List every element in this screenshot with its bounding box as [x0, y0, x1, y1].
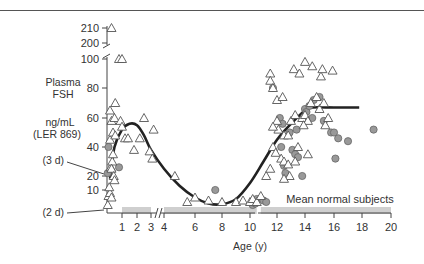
data-point-triangle	[111, 99, 120, 107]
y-tick-label: 80	[87, 82, 99, 94]
data-point-circle	[105, 143, 112, 150]
x-tick-label: 12	[271, 221, 283, 233]
data-point-triangle	[109, 150, 118, 158]
y-tick-label: 210	[81, 22, 99, 34]
data-point-triangle	[328, 66, 337, 74]
data-point-triangle	[140, 114, 149, 122]
data-point-triangle	[103, 201, 112, 209]
data-point-triangle	[130, 145, 139, 153]
data-point-circle	[332, 155, 339, 162]
x-tick-label: 10	[244, 221, 256, 233]
data-point-triangle	[218, 198, 227, 206]
x-tick-label: 2	[134, 221, 140, 233]
data-point-triangle	[149, 125, 158, 133]
data-point-triangle	[291, 111, 300, 119]
data-point-circle	[344, 138, 351, 145]
y-label-units: ng/mL	[30, 116, 90, 128]
normal-band-label: Mean normal subjects	[280, 193, 400, 205]
data-point-circle	[212, 186, 219, 193]
data-point-triangle	[301, 57, 310, 65]
annotation-2d-leader	[67, 210, 104, 213]
data-point-circle	[278, 143, 285, 150]
x-axis-label: Age (y)	[220, 240, 280, 252]
data-point-triangle	[183, 198, 192, 206]
annotation-3d-leader	[67, 162, 104, 174]
data-point-circle	[299, 172, 306, 179]
y-label-line-2: FSH	[38, 88, 88, 100]
data-point-triangle	[289, 65, 298, 73]
data-point-circle	[293, 126, 300, 133]
x-tick-label: 16	[328, 221, 340, 233]
data-point-triangle	[170, 172, 179, 180]
data-point-circle	[370, 126, 377, 133]
data-point-triangle	[294, 143, 303, 151]
x-tick-label: 14	[299, 221, 311, 233]
annotation-2d: (2 d)	[24, 206, 64, 218]
y-tick-label: 200	[81, 37, 99, 49]
annotation-3d: (3 d)	[24, 154, 64, 166]
x-tick-label: 6	[192, 221, 198, 233]
data-point-circle	[330, 129, 337, 136]
x-tick-label: 1	[119, 221, 125, 233]
data-point-triangle	[266, 164, 275, 172]
data-point-triangle	[278, 93, 287, 101]
data-point-triangle	[318, 65, 327, 73]
y-tick-label: 100	[81, 53, 99, 65]
data-point-triangle	[204, 196, 213, 204]
x-tick-label: 8	[219, 221, 225, 233]
x-tick-label: 4	[161, 221, 167, 233]
data-point-triangle	[303, 150, 312, 158]
x-tick-label: 20	[385, 221, 397, 233]
x-tick-label: 18	[356, 221, 368, 233]
data-point-triangle	[107, 24, 116, 32]
y-label-line-1: Plasma	[38, 76, 88, 88]
y-label-assay: (LER 869)	[22, 128, 92, 140]
x-tick-label: 3	[148, 221, 154, 233]
y-tick-label: 40	[87, 141, 99, 153]
y-tick-label: 10	[87, 184, 99, 196]
